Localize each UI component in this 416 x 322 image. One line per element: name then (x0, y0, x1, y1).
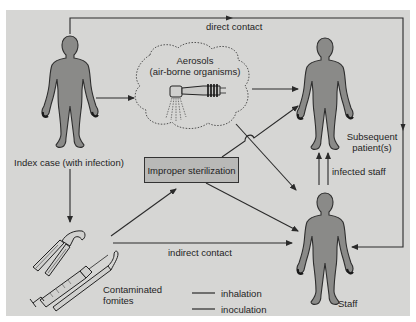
subsequent-patients-label-2: patient(s) (340, 142, 404, 153)
sterilization-to-staff-edge (206, 183, 298, 231)
direct-contact-label: direct contact (206, 21, 263, 32)
aerosols-title: Aerosols (152, 55, 238, 66)
staff-label: Staff (338, 298, 357, 309)
direct-contact-arrowhead (226, 16, 233, 21)
contaminated-fomites-label-1: Contaminated (103, 284, 162, 295)
improper-sterilization-box: Improper sterilization (144, 157, 239, 183)
extraction-forceps-icon (33, 231, 85, 276)
right-line-arrowhead (401, 124, 406, 131)
infected-staff-label: infected staff (332, 166, 386, 177)
index-case-label: Index case (with infection) (14, 157, 124, 168)
aerosols-subtitle: (air-borne organisms) (142, 66, 248, 77)
improper-sterilization-label: Improper sterilization (147, 165, 235, 176)
indirect-contact-label: indirect contact (168, 247, 232, 258)
index-case-figure (42, 36, 98, 147)
aerosols-to-staff-edge (236, 124, 296, 190)
fomites-to-sterilization-edge (111, 189, 176, 236)
legend-inoculation-label: inoculation (221, 304, 266, 315)
staff-figure (297, 193, 353, 304)
subsequent-patients-label-1: Subsequent (340, 131, 404, 142)
legend-inhalation-label: inhalation (221, 288, 262, 299)
contaminated-fomites-label-2: fomites (103, 295, 134, 306)
